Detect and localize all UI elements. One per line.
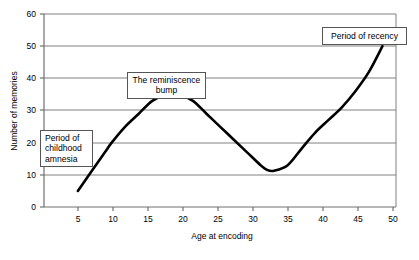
y-tick-label-10: 10 (27, 170, 37, 180)
x-tick-label-25: 25 (213, 214, 223, 224)
x-tick-label-5: 5 (76, 214, 81, 224)
x-axis-title: Age at encoding (191, 231, 253, 241)
x-tick-label-45: 45 (353, 214, 363, 224)
x-tick-label-30: 30 (248, 214, 258, 224)
y-tick-label-30: 30 (27, 105, 37, 115)
x-tick-label-50: 50 (388, 214, 398, 224)
y-axis-title: Number of memories (9, 71, 19, 150)
y-axis-tick-labels: 0 10 20 30 40 50 60 (27, 9, 37, 212)
y-tick-label-20: 20 (27, 138, 37, 148)
y-tick-label-40: 40 (27, 73, 37, 83)
x-tick-label-40: 40 (318, 214, 328, 224)
y-tick-label-60: 60 (27, 9, 37, 19)
x-axis-ticks (78, 207, 393, 211)
x-tick-label-10: 10 (108, 214, 118, 224)
x-tick-label-35: 35 (283, 214, 293, 224)
chart-container: 0 10 20 30 40 50 60 5 10 15 20 2 (0, 0, 419, 260)
y-tick-label-0: 0 (31, 202, 36, 212)
x-axis-tick-labels: 5 10 15 20 25 30 35 40 45 50 (76, 214, 398, 224)
y-tick-label-50: 50 (27, 41, 37, 51)
annotation-period-recency: Period of recency (322, 27, 407, 45)
annotation-childhood-amnesia: Period of childhood amnesia (40, 130, 93, 167)
x-tick-label-15: 15 (143, 214, 153, 224)
x-tick-label-20: 20 (178, 214, 188, 224)
annotation-reminiscence-bump: The reminiscence bump (127, 72, 206, 99)
